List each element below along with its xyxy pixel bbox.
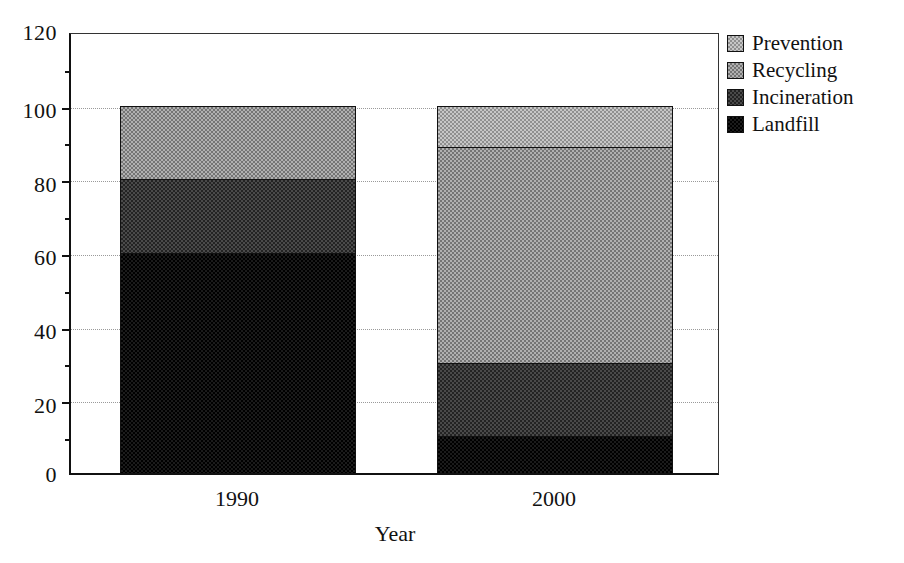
y-axis-label-80: 80 <box>0 174 57 196</box>
legend-swatch-landfill-icon <box>727 116 744 133</box>
bar-2000[interactable] <box>437 33 673 473</box>
stacked-bar-chart: 120 100 80 60 40 20 0 <box>0 0 904 563</box>
y-axis-label-60: 60 <box>0 247 57 269</box>
y-tick-major-20 <box>62 402 71 404</box>
legend-item-recycling[interactable]: Recycling <box>727 57 897 84</box>
y-tick-minor-30 <box>65 365 71 367</box>
legend-label-landfill: Landfill <box>752 114 820 135</box>
plot-area <box>69 33 719 475</box>
bar-2000-segment-incineration[interactable] <box>437 363 673 436</box>
y-axis-label-40: 40 <box>0 321 57 343</box>
legend-item-landfill[interactable]: Landfill <box>727 111 897 138</box>
bar-1990-segment-landfill[interactable] <box>120 253 356 473</box>
x-axis-title: Year <box>0 522 790 546</box>
x-axis-label-2000: 2000 <box>474 487 634 511</box>
y-tick-major-100 <box>62 108 71 110</box>
legend-swatch-prevention-icon <box>727 35 744 52</box>
legend-item-incineration[interactable]: Incineration <box>727 84 897 111</box>
y-tick-minor-90 <box>65 144 71 146</box>
legend-label-incineration: Incineration <box>752 87 853 108</box>
y-tick-minor-10 <box>65 439 71 441</box>
y-tick-major-40 <box>62 329 71 331</box>
y-axis-label-100: 100 <box>0 100 57 122</box>
y-tick-minor-110 <box>65 71 71 73</box>
y-tick-major-80 <box>62 181 71 183</box>
bar-2000-segment-recycling[interactable] <box>437 147 673 363</box>
bar-1990[interactable] <box>120 33 356 473</box>
y-tick-major-60 <box>62 255 71 257</box>
legend-swatch-recycling-icon <box>727 62 744 79</box>
y-axis-label-120: 120 <box>0 22 57 44</box>
legend-label-recycling: Recycling <box>752 60 837 81</box>
legend: Prevention Recycling Incineration Landfi… <box>727 30 897 138</box>
x-axis-label-1990: 1990 <box>157 487 317 511</box>
y-axis-label-20: 20 <box>0 395 57 417</box>
bar-2000-segment-landfill[interactable] <box>437 436 673 473</box>
bar-2000-segment-prevention[interactable] <box>437 106 673 147</box>
y-tick-minor-50 <box>65 292 71 294</box>
legend-item-prevention[interactable]: Prevention <box>727 30 897 57</box>
legend-label-prevention: Prevention <box>752 33 843 54</box>
y-axis-label-0: 0 <box>0 464 57 486</box>
bar-1990-segment-incineration[interactable] <box>120 179 356 253</box>
legend-swatch-incineration-icon <box>727 89 744 106</box>
y-tick-minor-70 <box>65 218 71 220</box>
bar-1990-segment-recycling[interactable] <box>120 106 356 179</box>
